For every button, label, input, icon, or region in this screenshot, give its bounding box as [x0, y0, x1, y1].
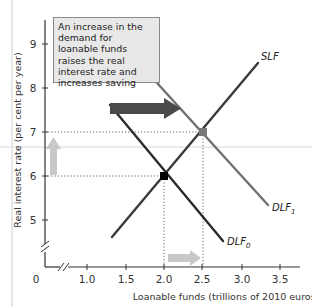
slf-curve: [112, 63, 258, 237]
y-axis: [41, 20, 49, 267]
y-axis-title: Real interest rate (per cent per year): [12, 52, 23, 227]
annotation-callout: An increase in the demand for loanable f…: [53, 17, 160, 83]
y-tick-label: 6: [30, 170, 37, 182]
y-tick-label: 7: [30, 126, 37, 138]
quantity-increase-arrow-icon: [168, 250, 201, 266]
x-tick-label: 1.5: [118, 273, 135, 285]
guide-lines: [45, 132, 203, 267]
new-equilibrium-point: [199, 128, 207, 136]
x-axis: [45, 263, 300, 271]
origin-label: 0: [33, 273, 40, 285]
x-tick-label: 2.0: [156, 273, 173, 285]
x-tick-label: 3.0: [234, 273, 251, 285]
x-tick-label: 3.5: [272, 273, 289, 285]
dlf1-label: DLF1: [272, 202, 296, 216]
dlf1-curve: [148, 73, 268, 205]
y-tick-label: 5: [30, 214, 37, 226]
dlf0-label: DLF0: [227, 236, 251, 250]
x-tick-label: 2.5: [194, 273, 211, 285]
rate-rise-arrow-icon: [46, 137, 61, 175]
x-axis-title: Loanable funds (trillions of 2010 euros): [133, 291, 312, 302]
slf-label: SLF: [261, 51, 279, 62]
y-tick-label: 8: [30, 82, 37, 94]
y-tick-label: 9: [30, 38, 37, 50]
demand-shift-arrow-icon: [110, 98, 181, 119]
x-tick-label: 1.0: [79, 273, 96, 285]
initial-equilibrium-point: [160, 172, 168, 180]
